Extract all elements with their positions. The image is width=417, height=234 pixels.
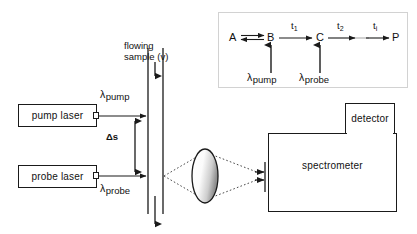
focusing-lens bbox=[192, 149, 218, 203]
spectrometer-label: spectrometer bbox=[269, 134, 396, 234]
figure-canvas: A B C P bbox=[0, 0, 417, 234]
box-seam-mask bbox=[347, 133, 393, 135]
spectrometer-box: spectrometer bbox=[268, 133, 397, 212]
detector-label: detector bbox=[346, 104, 394, 133]
detector-box: detector bbox=[345, 103, 395, 134]
